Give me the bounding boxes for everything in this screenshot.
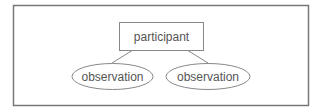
observation-label-left: observation <box>81 70 143 84</box>
observation-node-left: observation <box>72 64 153 90</box>
participant-node: participant <box>120 23 204 51</box>
diagram-canvas: participant observation observation <box>0 0 317 110</box>
participant-label: participant <box>134 30 190 44</box>
outer-frame <box>14 6 309 106</box>
observation-label-right: observation <box>177 70 239 84</box>
observation-node-right: observation <box>166 64 250 90</box>
